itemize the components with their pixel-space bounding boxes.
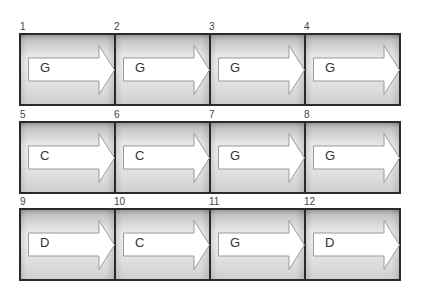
bar-number: 7 bbox=[209, 110, 215, 120]
chord-label: G bbox=[135, 61, 145, 74]
bar-cell: 7 G bbox=[211, 123, 306, 192]
bar-number: 8 bbox=[304, 110, 310, 120]
bar-cell: 1 G bbox=[21, 35, 116, 104]
chord-label: C bbox=[135, 236, 144, 249]
chord-label: G bbox=[230, 236, 240, 249]
bar-cell: 2 G bbox=[116, 35, 211, 104]
bar-cell: 12 D bbox=[306, 210, 399, 279]
grid-row-3: 9 D 10 C 11 G 12 D bbox=[19, 208, 401, 281]
bar-number: 11 bbox=[209, 197, 219, 207]
bar-number: 2 bbox=[114, 22, 120, 32]
grid-row-1: 1 G 2 G 3 G 4 G bbox=[19, 33, 401, 106]
chord-label: C bbox=[135, 149, 144, 162]
bar-cell: 3 G bbox=[211, 35, 306, 104]
bar-cell: 11 G bbox=[211, 210, 306, 279]
chord-label: G bbox=[325, 61, 335, 74]
bar-number: 4 bbox=[304, 22, 310, 32]
chord-label: G bbox=[230, 61, 240, 74]
chord-label: C bbox=[40, 149, 49, 162]
chord-label: G bbox=[230, 149, 240, 162]
chord-label: D bbox=[325, 236, 334, 249]
bar-number: 12 bbox=[304, 197, 315, 207]
bar-number: 6 bbox=[114, 110, 120, 120]
chord-label: G bbox=[40, 61, 50, 74]
bar-cell: 4 G bbox=[306, 35, 399, 104]
grid-row-2: 5 C 6 C 7 G 8 G bbox=[19, 121, 401, 194]
bar-cell: 5 C bbox=[21, 123, 116, 192]
bar-cell: 10 C bbox=[116, 210, 211, 279]
chord-label: D bbox=[40, 236, 49, 249]
bar-cell: 8 G bbox=[306, 123, 399, 192]
bar-number: 9 bbox=[20, 197, 26, 207]
bar-cell: 6 C bbox=[116, 123, 211, 192]
bar-number: 5 bbox=[20, 110, 26, 120]
chord-label: G bbox=[325, 149, 335, 162]
bar-number: 3 bbox=[209, 22, 215, 32]
bar-number: 10 bbox=[114, 197, 125, 207]
bar-cell: 9 D bbox=[21, 210, 116, 279]
bar-number: 1 bbox=[20, 22, 26, 32]
